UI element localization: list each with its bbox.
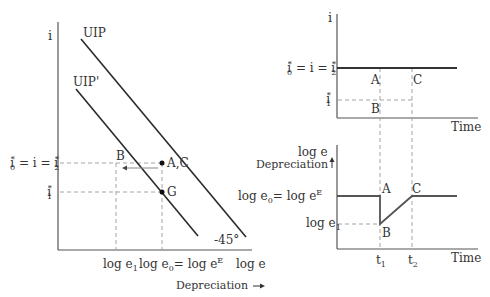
slope-label: -45° <box>214 233 239 247</box>
rt-x-axis-label: Time <box>451 120 481 134</box>
right-top-panel: i Time A C B i*0 = i = i*2 i*1 <box>287 10 481 250</box>
rb-label-c: C <box>412 182 421 196</box>
exchange-rate-path <box>337 196 457 224</box>
depreciation-caption: Depreciation <box>176 279 248 292</box>
right-arrow-head-icon <box>260 284 265 289</box>
uip-prime-label: UIP' <box>73 75 99 89</box>
uip-label: UIP <box>83 26 106 40</box>
rb-label-b: B <box>382 226 391 240</box>
y-tick-i0-i2: i*0 = i = i*2 <box>10 155 59 172</box>
left-x-axis-label: log e <box>236 257 266 271</box>
label-ac: A,C <box>166 156 189 170</box>
rt-label-b: B <box>371 102 380 116</box>
rt-y-tick-i0-i2: i*0 = i = i*2 <box>287 60 336 77</box>
rb-y-axis-label: log e <box>298 145 328 159</box>
x-tick-log-e1: log e1 <box>103 257 138 273</box>
y-tick-i1: i*1 <box>47 184 52 201</box>
rb-label-a: A <box>381 182 391 196</box>
rb-y-tick-log-e1: log e1 <box>306 216 341 232</box>
rb-y-axis-caption: Depreciation <box>256 158 328 171</box>
right-bottom-panel: log e Depreciation A B C log e0= log eE … <box>238 145 481 269</box>
rb-x-axis-label: Time <box>451 251 481 265</box>
arrow-head-icon <box>122 166 127 171</box>
rb-y-tick-log-e0: log e0= log eE <box>238 188 322 205</box>
rt-y-tick-i1: i*1 <box>326 91 331 108</box>
left-y-axis-label: i <box>48 28 52 43</box>
rt-y-axis-label: i <box>328 10 332 25</box>
point-g <box>160 190 165 195</box>
rt-label-c: C <box>413 73 422 87</box>
diagram-canvas: i UIP UIP' A,C B G i*0 = i = i*2 i*1 log… <box>0 0 490 297</box>
x-tick-log-e0: log e0= log eE <box>139 256 223 273</box>
x-tick-t1: t1 <box>376 253 386 269</box>
left-panel: i UIP UIP' A,C B G i*0 = i = i*2 i*1 log… <box>10 22 266 292</box>
point-ac <box>160 161 165 166</box>
up-arrow-head-icon <box>330 157 335 162</box>
label-g: G <box>167 185 177 199</box>
rt-label-a: A <box>370 73 380 87</box>
uip-curve <box>81 39 246 237</box>
x-tick-t2: t2 <box>408 253 418 269</box>
label-b: B <box>116 149 125 163</box>
